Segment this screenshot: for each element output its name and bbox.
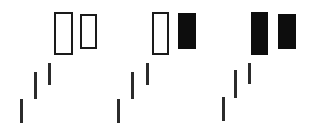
pattern-variant-3-candle-5 [278, 14, 296, 49]
pattern-variant-3-candle-2 [234, 70, 237, 98]
pattern-variant-3 [0, 0, 317, 131]
pattern-variant-3-candle-3 [248, 63, 251, 84]
pattern-variant-3-candle-4 [251, 12, 268, 55]
candle-body-bearish [251, 12, 268, 55]
candle-body-bearish [278, 14, 296, 49]
candle-wick [222, 97, 225, 121]
candle-wick [248, 63, 251, 84]
pattern-variant-3-candle-1 [222, 97, 225, 121]
candle-wick [234, 70, 237, 98]
candlestick-pattern-diagram [0, 0, 317, 131]
